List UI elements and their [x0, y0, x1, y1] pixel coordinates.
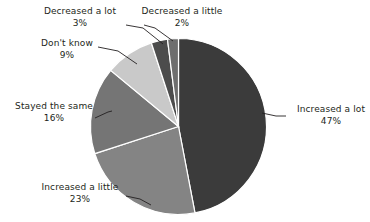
pie-label-stayed-the-same-value: 16% [2, 113, 106, 125]
pie-label-increased-a-little-text: Increased a little [26, 182, 134, 194]
pie-label-dont-know-text: Don't know [22, 38, 112, 50]
pie-label-dont-know: Don't know 9% [22, 38, 112, 61]
pie-label-increased-a-little-value: 23% [26, 194, 134, 206]
pie-label-dont-know-value: 9% [22, 50, 112, 62]
pie-label-increased-a-little: Increased a little 23% [26, 182, 134, 205]
pie-label-decreased-a-lot-text: Decreased a lot [28, 6, 132, 18]
pie-label-increased-a-lot: Increased a lot 47% [288, 104, 370, 127]
pie-slice-increased-a-lot [179, 39, 267, 213]
pie-label-decreased-a-little: Decreased a little 2% [128, 6, 236, 29]
pie-label-decreased-a-lot-value: 3% [28, 18, 132, 30]
pie-label-decreased-a-lot: Decreased a lot 3% [28, 6, 132, 29]
pie-label-decreased-a-little-value: 2% [128, 18, 236, 30]
pie-label-stayed-the-same-text: Stayed the same [2, 101, 106, 113]
pie-label-increased-a-lot-value: 47% [288, 116, 370, 128]
pie-label-decreased-a-little-text: Decreased a little [128, 6, 236, 18]
pie-label-stayed-the-same: Stayed the same 16% [2, 101, 106, 124]
pie-label-increased-a-lot-text: Increased a lot [288, 104, 370, 116]
